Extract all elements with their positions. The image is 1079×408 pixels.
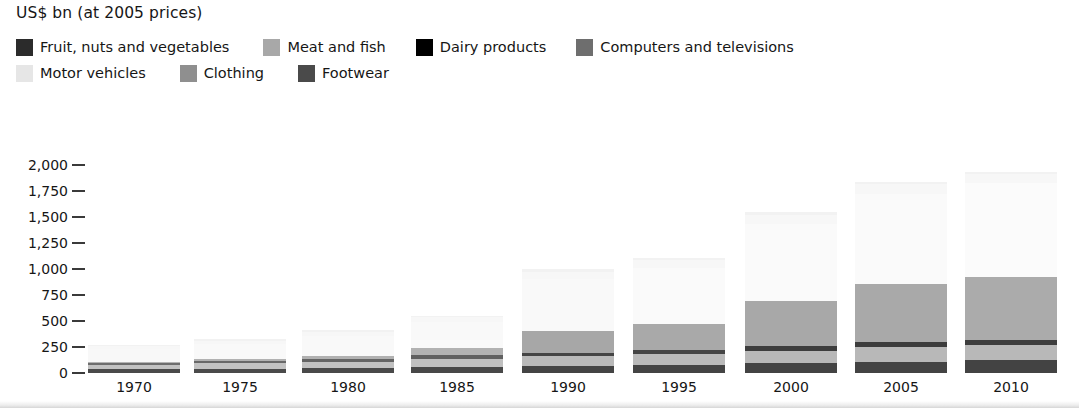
y-axis-tick-label: 500 (6, 313, 68, 329)
chart-root: US$ bn (at 2005 prices) Fruit, nuts and … (0, 0, 1079, 408)
bar-segment (302, 368, 394, 373)
bar-segment (965, 277, 1057, 340)
bar-segment (522, 272, 614, 279)
y-axis-tick-mark (72, 242, 85, 244)
bar-segment (745, 215, 837, 224)
bar-segment (633, 260, 725, 268)
bar-segment (633, 354, 725, 364)
bar-segment (522, 279, 614, 331)
bar-1980[interactable] (302, 330, 394, 373)
bar-1985[interactable] (411, 316, 503, 373)
bar-segment (522, 356, 614, 365)
bar-segment (302, 336, 394, 356)
x-axis-tick-label: 2010 (993, 379, 1029, 395)
bar-segment (88, 349, 180, 362)
bar-1990[interactable] (522, 269, 614, 373)
bar-1995[interactable] (633, 258, 725, 373)
bar-segment (745, 301, 837, 346)
y-axis-tick-label: 250 (6, 339, 68, 355)
x-axis-tick-label: 1970 (116, 379, 152, 395)
bar-segment (411, 322, 503, 348)
bar-segment (855, 194, 947, 284)
bar-segment (633, 324, 725, 350)
bar-segment (411, 359, 503, 367)
y-axis-tick-label: 750 (6, 287, 68, 303)
y-axis-tick-mark (72, 190, 85, 192)
bar-1970[interactable] (88, 345, 180, 373)
bar-segment (965, 345, 1057, 360)
bar-1975[interactable] (194, 339, 286, 373)
bar-segment (855, 284, 947, 342)
bar-segment (965, 360, 1057, 373)
bar-segment (88, 369, 180, 373)
bar-segment (633, 365, 725, 373)
bar-segment (194, 344, 286, 360)
y-axis-tick-label: 0 (6, 365, 68, 381)
x-axis-tick-label: 1985 (439, 379, 475, 395)
y-axis-tick-mark (72, 164, 85, 166)
bar-segment (522, 331, 614, 353)
bar-segment (855, 184, 947, 194)
bar-2010[interactable] (965, 172, 1057, 373)
bar-segment (522, 366, 614, 373)
bar-segment (965, 183, 1057, 277)
bar-2005[interactable] (855, 182, 947, 373)
x-axis-tick-label: 1980 (330, 379, 366, 395)
x-axis-tick-label: 2005 (883, 379, 919, 395)
y-axis-tick-mark (72, 294, 85, 296)
y-axis-tick-mark (72, 346, 85, 348)
y-axis-tick-mark (72, 320, 85, 322)
bar-segment (745, 363, 837, 373)
bar-segment (855, 347, 947, 361)
bar-segment (633, 268, 725, 324)
y-axis-tick-label: 2,000 (6, 157, 68, 173)
bar-segment (745, 224, 837, 301)
bar-segment (411, 367, 503, 373)
y-axis-tick-mark (72, 268, 85, 270)
plot-area: 2,0001,7501,5001,2501,0007505002500 1970… (0, 0, 1079, 408)
bar-segment (965, 174, 1057, 183)
bar-segment (411, 348, 503, 355)
bar-segment (855, 362, 947, 373)
x-axis-tick-label: 2000 (773, 379, 809, 395)
y-axis-tick-label: 1,500 (6, 209, 68, 225)
y-axis-tick-mark (72, 216, 85, 218)
y-axis-tick-mark (72, 372, 85, 374)
y-axis-tick-label: 1,250 (6, 235, 68, 251)
y-axis-tick-label: 1,000 (6, 261, 68, 277)
x-axis-tick-label: 1975 (222, 379, 258, 395)
x-axis-tick-label: 1990 (550, 379, 586, 395)
bar-segment (194, 369, 286, 373)
bar-segment (745, 351, 837, 363)
x-axis-tick-label: 1995 (661, 379, 697, 395)
scan-edge-artifact (0, 401, 1079, 408)
y-axis-tick-label: 1,750 (6, 183, 68, 199)
bar-2000[interactable] (745, 212, 837, 373)
